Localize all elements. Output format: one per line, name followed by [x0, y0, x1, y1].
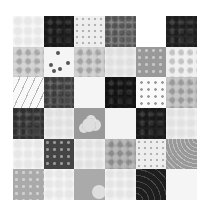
fabric-tile-r2-c1 [13, 47, 44, 78]
quilt-grid [13, 16, 197, 200]
fabric-pattern [166, 169, 197, 200]
fabric-tile-r4-c2 [44, 108, 75, 139]
fabric-tile-r6-c3 [74, 169, 105, 200]
fabric-pattern [74, 47, 105, 78]
fabric-pattern [105, 169, 136, 200]
fabric-tile-r2-c3 [74, 47, 105, 78]
fabric-tile-r3-c1 [13, 77, 44, 108]
fabric-tile-r1-c1 [13, 16, 44, 47]
fabric-pattern [13, 139, 44, 170]
fabric-tile-r3-c6 [166, 77, 197, 108]
fabric-pattern [105, 108, 136, 139]
fabric-pattern [44, 169, 75, 200]
sprig-motif-icon [58, 67, 62, 71]
sprig-motif-icon [52, 69, 56, 73]
fabric-pattern [13, 16, 44, 47]
fabric-tile-r3-c5 [136, 77, 167, 108]
fabric-pattern [13, 77, 44, 108]
fabric-tile-r1-c4 [105, 16, 136, 47]
fabric-tile-r3-c4 [105, 77, 136, 108]
fabric-tile-r2-c2 [44, 47, 75, 78]
fabric-tile-r3-c3 [74, 77, 105, 108]
fabric-pattern [136, 77, 167, 108]
fabric-pattern [13, 108, 44, 139]
fabric-tile-r1-c2 [44, 16, 75, 47]
circle-motif-icon [92, 185, 105, 199]
fabric-tile-r5-c4 [105, 139, 136, 170]
fabric-tile-r2-c5 [136, 47, 167, 78]
fabric-tile-r1-c5 [136, 16, 167, 47]
fabric-pattern [166, 47, 197, 78]
fabric-tile-r5-c1 [13, 139, 44, 170]
fabric-tile-r5-c3 [74, 139, 105, 170]
fabric-tile-r6-c1 [13, 169, 44, 200]
fabric-pattern [166, 77, 197, 108]
fabric-pattern [105, 139, 136, 170]
fabric-pattern [166, 108, 197, 139]
fabric-pattern [13, 169, 44, 200]
fabric-tile-r1-c3 [74, 16, 105, 47]
fabric-pattern [105, 77, 136, 108]
fabric-pattern [136, 139, 167, 170]
fabric-tile-r4-c5 [136, 108, 167, 139]
fabric-pattern [136, 108, 167, 139]
fabric-tile-r3-c2 [44, 77, 75, 108]
fabric-pattern [44, 139, 75, 170]
fabric-tile-r4-c1 [13, 108, 44, 139]
sprig-motif-icon [56, 51, 60, 55]
fabric-tile-r2-c4 [105, 47, 136, 78]
fabric-tile-r4-c6 [166, 108, 197, 139]
sprig-motif-icon [49, 63, 53, 67]
fabric-pattern [74, 77, 105, 108]
fabric-tile-r1-c6 [166, 16, 197, 47]
fabric-pattern [74, 16, 105, 47]
fabric-tile-r6-c6 [166, 169, 197, 200]
fabric-pattern [136, 47, 167, 78]
fabric-pattern [166, 139, 197, 170]
fabric-pattern [136, 16, 167, 47]
fabric-pattern [105, 47, 136, 78]
fabric-pattern [44, 77, 75, 108]
fabric-pattern [136, 169, 167, 200]
fabric-tile-r6-c2 [44, 169, 75, 200]
fabric-tile-r5-c2 [44, 139, 75, 170]
fabric-pattern [13, 47, 44, 78]
fabric-pattern [166, 16, 197, 47]
fabric-pattern [44, 16, 75, 47]
sprig-motif-icon [66, 61, 70, 65]
fabric-tile-r6-c4 [105, 169, 136, 200]
fabric-pattern [74, 139, 105, 170]
fabric-tile-r5-c6 [166, 139, 197, 170]
fabric-tile-r6-c5 [136, 169, 167, 200]
fabric-pattern [44, 108, 75, 139]
fabric-tile-r5-c5 [136, 139, 167, 170]
fabric-tile-r4-c3 [74, 108, 105, 139]
fabric-pattern [105, 16, 136, 47]
fabric-tile-r4-c4 [105, 108, 136, 139]
fabric-tile-r2-c6 [166, 47, 197, 78]
